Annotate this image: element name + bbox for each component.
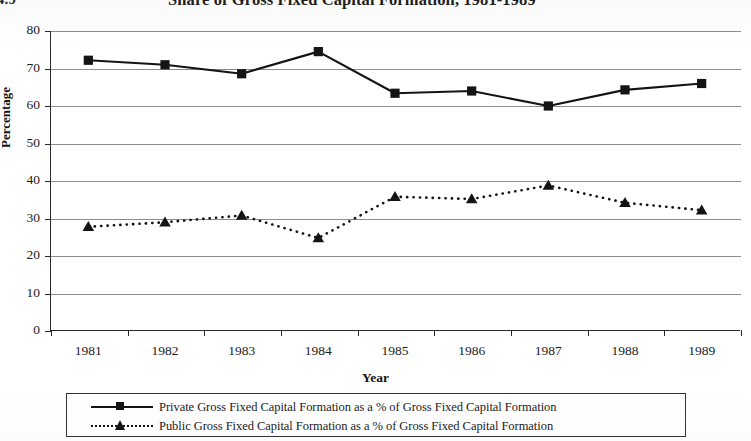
triangle-marker-icon <box>115 420 125 430</box>
series-public <box>83 180 708 243</box>
data-point-square <box>544 101 553 110</box>
data-point-square <box>697 79 706 88</box>
data-point-square <box>390 89 399 98</box>
data-point-square <box>620 85 629 94</box>
data-point-square <box>160 60 169 69</box>
x-axis-tick <box>741 330 742 336</box>
legend-key-public <box>85 417 159 435</box>
x-axis-tick-label: 1984 <box>278 343 358 359</box>
y-axis-tick-label: 80 <box>6 22 40 38</box>
y-axis-tick-label: 50 <box>6 135 40 151</box>
x-axis-tick-label: 1983 <box>202 343 282 359</box>
y-axis-tick-label: 0 <box>6 322 40 338</box>
x-axis-tick-label: 1982 <box>125 343 205 359</box>
x-axis-tick-label: 1985 <box>355 343 435 359</box>
legend-label-private: Private Gross Fixed Capital Formation as… <box>159 400 557 415</box>
y-axis-tick-label: 40 <box>6 172 40 188</box>
data-point-square <box>467 86 476 95</box>
y-axis-tick-label: 30 <box>6 210 40 226</box>
legend: Private Gross Fixed Capital Formation as… <box>66 393 686 437</box>
data-point-triangle <box>389 191 401 201</box>
data-point-square <box>314 47 323 56</box>
legend-item-public: Public Gross Fixed Capital Formation as … <box>67 416 687 436</box>
x-axis-tick-label: 1988 <box>585 343 665 359</box>
x-axis-title: Year <box>0 370 751 386</box>
data-point-triangle <box>236 210 248 220</box>
y-axis-tick-label: 10 <box>6 285 40 301</box>
data-point-square <box>237 69 246 78</box>
square-marker-icon <box>116 402 124 410</box>
x-axis-tick-label: 1981 <box>48 343 128 359</box>
data-point-triangle <box>83 221 95 231</box>
y-axis-tick-label: 20 <box>6 247 40 263</box>
x-axis-tick-label: 1987 <box>508 343 588 359</box>
legend-key-private <box>85 398 159 416</box>
series-private <box>84 47 707 111</box>
data-point-triangle <box>543 180 555 190</box>
chart-container: Percentage 01020304050607080 19811982198… <box>0 0 751 441</box>
x-axis-tick-label: 1986 <box>432 343 512 359</box>
series-plot <box>50 31 740 331</box>
legend-item-private: Private Gross Fixed Capital Formation as… <box>67 397 687 417</box>
data-point-triangle <box>466 193 478 203</box>
data-point-triangle <box>159 216 171 226</box>
x-axis-tick-label: 1989 <box>662 343 742 359</box>
y-axis-tick-label: 70 <box>6 60 40 76</box>
y-axis-tick-label: 60 <box>6 97 40 113</box>
legend-label-public: Public Gross Fixed Capital Formation as … <box>159 419 553 434</box>
data-point-square <box>84 56 93 65</box>
